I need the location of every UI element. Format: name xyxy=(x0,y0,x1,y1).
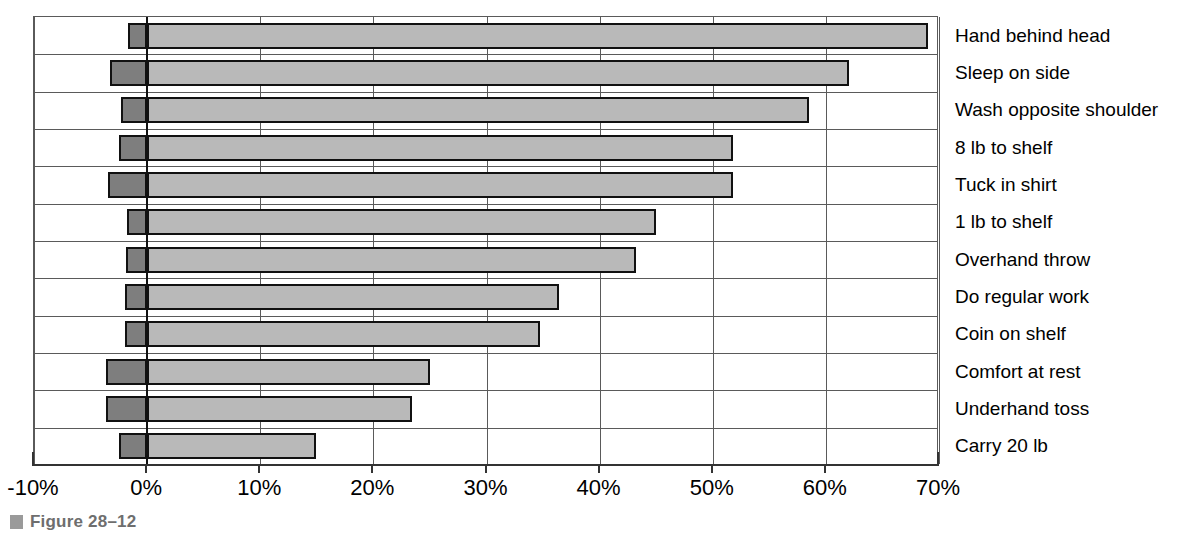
bar-positive xyxy=(147,321,540,347)
bar-row xyxy=(34,92,937,129)
bar-positive xyxy=(147,172,733,198)
bar-negative xyxy=(128,23,147,49)
x-axis-tick-label: 50% xyxy=(690,477,734,499)
bar-positive xyxy=(147,359,430,385)
bar-row xyxy=(34,316,937,353)
category-label: Tuck in shirt xyxy=(955,175,1057,194)
x-axis-tick xyxy=(485,464,487,473)
bar-negative xyxy=(108,172,148,198)
x-axis-tick-label: 30% xyxy=(463,477,507,499)
bar-row xyxy=(34,278,937,315)
bar-positive xyxy=(147,135,733,161)
category-label: Overhand throw xyxy=(955,250,1090,269)
category-label: 1 lb to shelf xyxy=(955,212,1052,231)
x-axis-tick-label: 70% xyxy=(916,477,960,499)
x-axis-tick xyxy=(32,452,34,466)
bar-row xyxy=(34,241,937,278)
bar-positive xyxy=(147,396,412,422)
x-axis-tick xyxy=(824,464,826,473)
bar-negative xyxy=(127,209,147,235)
bar-row xyxy=(34,129,937,166)
bar-negative xyxy=(110,60,147,86)
x-axis-tick-label: 0% xyxy=(130,477,162,499)
category-label: Comfort at rest xyxy=(955,362,1081,381)
category-label: Underhand toss xyxy=(955,399,1089,418)
x-axis-tick xyxy=(258,464,260,473)
bar-row xyxy=(34,204,937,241)
bar-negative xyxy=(119,433,147,459)
bar-positive xyxy=(147,209,656,235)
x-axis-tick xyxy=(145,464,147,473)
bar-positive xyxy=(147,284,559,310)
bar-negative xyxy=(126,247,147,273)
bar-positive xyxy=(147,60,848,86)
category-label: Do regular work xyxy=(955,287,1089,306)
category-label: 8 lb to shelf xyxy=(955,138,1052,157)
chart-plot-area xyxy=(33,16,938,464)
category-label: Sleep on side xyxy=(955,63,1070,82)
x-axis-tick xyxy=(371,464,373,473)
x-axis-tick xyxy=(598,464,600,473)
x-axis-tick xyxy=(937,452,939,466)
bar-row xyxy=(34,390,937,427)
figure-bullet-marker xyxy=(10,515,23,529)
x-axis-tick-label: 60% xyxy=(803,477,847,499)
category-label: Wash opposite shoulder xyxy=(955,100,1158,119)
bar-positive xyxy=(147,433,316,459)
x-axis-tick-label: -10% xyxy=(7,477,58,499)
bar-negative xyxy=(119,135,147,161)
figure-caption-text: Figure 28–12 xyxy=(30,512,136,532)
bar-row xyxy=(34,353,937,390)
bar-row xyxy=(34,166,937,203)
bar-negative xyxy=(106,396,147,422)
bar-row xyxy=(34,54,937,91)
figure-28-12: -10%0%10%20%30%40%50%60%70% Hand behind … xyxy=(0,0,1200,545)
bar-row xyxy=(34,17,937,54)
bar-negative xyxy=(125,321,148,347)
bar-negative xyxy=(106,359,147,385)
gridline-70 xyxy=(939,17,940,464)
bar-positive xyxy=(147,23,928,49)
bar-positive xyxy=(147,247,636,273)
bar-positive xyxy=(147,97,809,123)
category-label: Carry 20 lb xyxy=(955,436,1048,455)
bar-row xyxy=(34,428,937,465)
x-axis-tick-label: 10% xyxy=(237,477,281,499)
x-axis-tick xyxy=(711,464,713,473)
category-label: Coin on shelf xyxy=(955,324,1066,343)
x-axis-tick-label: 20% xyxy=(350,477,394,499)
figure-caption: Figure 28–12 xyxy=(10,512,136,532)
category-label: Hand behind head xyxy=(955,26,1110,45)
x-axis-tick-label: 40% xyxy=(577,477,621,499)
zero-axis-line xyxy=(146,17,148,464)
bar-negative xyxy=(121,97,147,123)
bar-negative xyxy=(125,284,148,310)
